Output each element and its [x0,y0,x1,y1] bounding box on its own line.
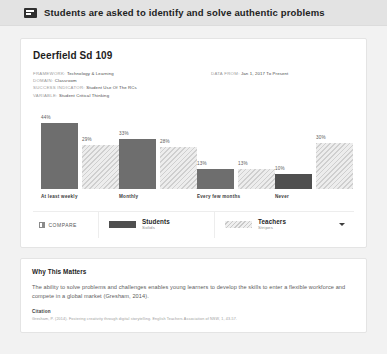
page-title: Students are asked to identify and solve… [44,7,325,18]
bar-students[interactable]: 13% [197,113,234,189]
legend-name: Teachers [258,219,286,226]
bar-group: 13% 13% [197,113,275,189]
chart-plot-area: 44% 29% 33% 28% [41,113,348,189]
category-label: Monthly [119,194,197,199]
bar-rect[interactable] [160,147,197,189]
category-label: Every few months [197,194,275,199]
legend-sublabel: Stripes [258,226,286,231]
bar-group: 33% 28% [119,113,197,189]
bar-value-label: 13% [238,161,248,167]
legend-item-teachers[interactable]: Teachers Stripes [214,212,330,238]
bar-value-label: 13% [197,161,207,167]
district-name: Deerfield Sd 109 [33,50,354,61]
metadata-key: DOMAIN: [33,78,53,83]
metadata-value: Jan 1, 2017 To Present [241,71,288,76]
metadata-key: VARIABLE: [33,93,58,98]
metadata-value: Technology & Learning [67,71,114,76]
legend-name: Students [142,219,170,226]
bar-value-label: 44% [41,115,51,121]
bar-teachers[interactable]: 13% [238,113,275,189]
report-card: Deerfield Sd 109 FRAMEWORK: Technology &… [20,38,367,248]
bar-students[interactable]: 10% [275,113,312,189]
bar-rect[interactable] [238,169,275,189]
metadata-key: SUCCESS INDICATOR: [33,85,85,90]
metadata-key: FRAMEWORK: [33,71,66,76]
bar-value-label: 30% [316,135,326,141]
metadata-value: Student Critical Thinking [59,93,109,98]
metadata-value: Student Use Of The RCs [86,85,137,90]
metadata-value: Classroom [55,78,77,83]
bar-teachers[interactable]: 28% [160,113,197,189]
bar-group: 10% 30% [275,113,353,189]
citation-title: Citation [32,309,355,314]
bar-rect[interactable] [197,169,234,189]
chart-legend-row: COMPARE Students Solids Teachers Stripes [33,211,354,237]
page-body: Deerfield Sd 109 FRAMEWORK: Technology &… [0,26,387,333]
bar-value-label: 29% [82,137,92,143]
presentation-card-icon [24,8,37,18]
bar-students[interactable]: 44% [41,113,78,189]
legend-dropdown-button[interactable] [330,212,354,238]
bar-students[interactable]: 33% [119,113,156,189]
metadata-key: DATA FROM: [211,71,240,76]
app-header: Students are asked to identify and solve… [0,0,387,26]
section-body-text: The ability to solve problems and challe… [32,283,355,301]
legend-sublabel: Solids [142,226,170,231]
metadata-row: DOMAIN: Classroom [33,77,203,84]
bar-group: 44% 29% [41,113,119,189]
legend-swatch-striped [225,221,252,228]
why-this-matters-card: Why This Matters The ability to solve pr… [20,258,367,333]
compare-label: COMPARE [49,222,77,228]
chevron-down-icon [339,223,345,226]
metadata-row: SUCCESS INDICATOR: Student Use Of The RC… [33,84,203,91]
metadata-row: VARIABLE: Student Critical Thinking [33,92,203,99]
metadata-right-column: DATA FROM: Jan 1, 2017 To Present [203,70,354,77]
bar-value-label: 28% [160,139,170,145]
metadata-grid: FRAMEWORK: Technology & Learning DOMAIN:… [33,70,354,99]
category-label: Never [275,194,353,199]
compare-bars-icon [39,222,45,228]
bar-teachers[interactable]: 29% [82,113,119,189]
bar-rect[interactable] [119,139,156,189]
bar-chart: 44% 29% 33% 28% [33,113,354,199]
bar-rect[interactable] [41,123,78,189]
metadata-row-data-from: DATA FROM: Jan 1, 2017 To Present [211,70,354,77]
bar-rect[interactable] [316,143,353,189]
citation-text: Gresham, P. (2014). Fostering creativity… [32,316,355,322]
legend-swatch-solid [109,221,136,228]
chart-category-labels: At least weekly Monthly Every few months… [41,194,348,199]
bar-value-label: 33% [119,131,129,137]
bar-teachers[interactable]: 30% [316,113,353,189]
legend-text: Teachers Stripes [258,219,286,231]
compare-button[interactable]: COMPARE [33,212,99,238]
metadata-left-column: FRAMEWORK: Technology & Learning DOMAIN:… [33,70,203,99]
legend-item-students[interactable]: Students Solids [99,212,214,238]
legend-text: Students Solids [142,219,170,231]
section-title: Why This Matters [32,268,355,275]
bar-rect[interactable] [275,174,312,189]
bar-value-label: 10% [275,166,285,172]
metadata-row: FRAMEWORK: Technology & Learning [33,70,203,77]
category-label: At least weekly [41,194,119,199]
bar-rect[interactable] [82,145,119,189]
